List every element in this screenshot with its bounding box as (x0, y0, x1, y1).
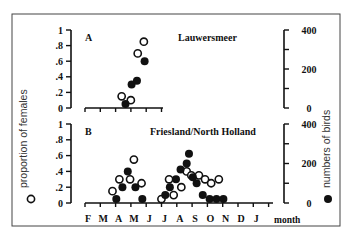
right-axis-title: numbers of birds (320, 110, 332, 188)
month-label: D (237, 213, 244, 224)
data-point-birds (185, 150, 193, 158)
month-label: J (162, 213, 167, 224)
open-circle-legend-icon (27, 195, 34, 202)
data-point-females (165, 176, 172, 183)
data-point-birds (166, 183, 174, 191)
left-tick-label: 0 (58, 198, 63, 209)
data-point-females (215, 176, 222, 183)
month-label: N (222, 213, 230, 224)
data-point-females (130, 156, 137, 163)
month-label: M (99, 213, 109, 224)
left-tick-label: .8 (56, 134, 64, 145)
filled-circle-legend-icon (324, 195, 332, 203)
data-point-females (116, 176, 123, 183)
data-point-birds (199, 191, 207, 199)
month-label: O (207, 213, 215, 224)
right-tick-label: 400 (302, 25, 317, 36)
data-point-birds (183, 160, 191, 168)
left-tick-label: .6 (56, 150, 64, 161)
month-label: J (254, 213, 259, 224)
month-label: A (176, 213, 184, 224)
month-label: M (129, 213, 139, 224)
data-point-birds (118, 183, 126, 191)
data-point-birds (219, 195, 227, 203)
data-point-birds (177, 165, 185, 173)
data-point-females (170, 192, 177, 199)
right-tick-label: 400 (302, 119, 317, 130)
data-point-birds (193, 179, 201, 187)
data-point-females (208, 180, 215, 187)
data-point-birds (124, 167, 132, 175)
panel-b: 0.2.4.6.81 0200400 B Friesland/North Hol… (56, 119, 317, 226)
data-point-birds (138, 195, 146, 203)
left-tick-label: .6 (56, 56, 64, 67)
left-tick-label: 1 (58, 119, 63, 130)
data-point-birds (131, 183, 139, 191)
data-point-females (118, 93, 125, 100)
data-point-females (126, 176, 133, 183)
left-tick-label: 0 (58, 103, 63, 114)
data-point-birds (121, 100, 129, 108)
month-label: F (85, 213, 91, 224)
right-tick-label: 200 (302, 158, 317, 169)
panel-b-letter: B (85, 126, 92, 137)
right-tick-label: 0 (307, 103, 312, 114)
left-tick-label: .4 (56, 71, 64, 82)
month-label: A (115, 213, 123, 224)
x-axis-title: month (274, 215, 301, 225)
panel-a-letter: A (85, 32, 93, 43)
panel-b-site-title: Friesland/North Holland (150, 126, 256, 137)
left-axis-title: proportion of females (17, 89, 29, 188)
left-tick-label: .2 (56, 87, 64, 98)
data-point-females (178, 184, 185, 191)
data-point-birds (133, 77, 141, 85)
left-tick-label: .4 (56, 166, 64, 177)
right-tick-label: 0 (307, 198, 312, 209)
data-point-birds (206, 195, 214, 203)
panel-a: 0.2.4.6.81 0200400 A Lauwersmeer (56, 25, 317, 114)
data-point-birds (172, 175, 180, 183)
right-tick-label: 200 (302, 64, 317, 75)
data-point-females (134, 50, 141, 57)
data-point-birds (112, 195, 120, 203)
data-point-females (140, 38, 147, 45)
data-point-birds (213, 195, 221, 203)
data-point-females (109, 188, 116, 195)
month-label: S (192, 213, 198, 224)
left-tick-label: .8 (56, 40, 64, 51)
data-point-birds (141, 57, 149, 65)
left-tick-label: .2 (56, 182, 64, 193)
month-label: J (147, 213, 152, 224)
data-point-birds (161, 191, 169, 199)
chart-figure: 0.2.4.6.81 0200400 A Lauwersmeer 0.2.4.6… (0, 0, 355, 247)
panel-a-site-title: Lauwersmeer (178, 32, 237, 43)
left-tick-label: 1 (58, 25, 63, 36)
